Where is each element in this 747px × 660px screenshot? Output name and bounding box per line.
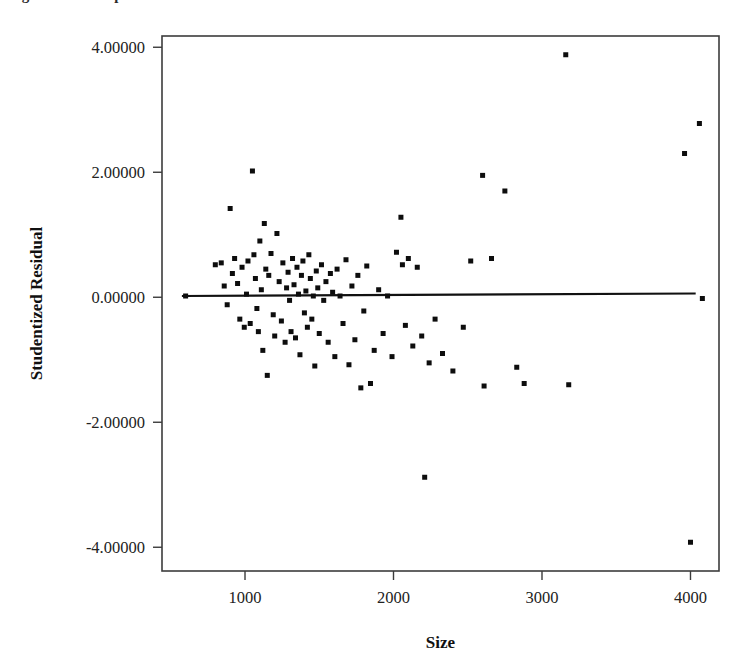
data-point <box>346 362 351 367</box>
data-point <box>297 352 302 357</box>
data-point <box>682 151 687 156</box>
y-tick-label: 4.00000 <box>91 38 145 57</box>
data-point <box>250 169 255 174</box>
data-point <box>244 292 249 297</box>
reference-line <box>182 294 696 297</box>
zero-reference-line <box>182 294 696 297</box>
data-point <box>274 231 279 236</box>
data-point <box>293 335 298 340</box>
data-point <box>403 323 408 328</box>
data-point <box>338 294 343 299</box>
x-axis-ticks: 1000200030004000 <box>229 571 707 607</box>
data-point <box>400 262 405 267</box>
data-point <box>251 252 256 257</box>
data-point <box>240 265 245 270</box>
data-point <box>368 381 373 386</box>
data-point <box>480 173 485 178</box>
data-point <box>259 287 264 292</box>
data-point <box>263 267 268 272</box>
data-point <box>394 250 399 255</box>
data-point <box>321 298 326 303</box>
data-point <box>225 302 230 307</box>
data-point <box>279 319 284 324</box>
data-point <box>280 260 285 265</box>
y-axis-title: Studentized Residual <box>27 226 46 380</box>
data-point <box>271 312 276 317</box>
data-point <box>219 260 224 265</box>
data-point <box>422 475 427 480</box>
data-point <box>427 360 432 365</box>
data-point <box>284 285 289 290</box>
data-point <box>326 340 331 345</box>
data-point <box>287 298 292 303</box>
data-point <box>289 329 294 334</box>
data-point <box>482 384 487 389</box>
data-point <box>260 348 265 353</box>
data-point <box>305 325 310 330</box>
data-point <box>228 206 233 211</box>
data-point <box>688 540 693 545</box>
data-point <box>237 317 242 322</box>
data-point <box>328 271 333 276</box>
data-point <box>292 282 297 287</box>
data-point <box>306 252 311 257</box>
data-point <box>286 270 291 275</box>
data-point <box>319 262 324 267</box>
data-point <box>385 294 390 299</box>
data-point <box>440 351 445 356</box>
data-point <box>213 262 218 267</box>
data-point <box>343 257 348 262</box>
y-tick-label: -2.00000 <box>86 413 145 432</box>
y-tick-label: 2.00000 <box>91 163 145 182</box>
x-tick-label: 4000 <box>674 588 707 607</box>
data-point <box>253 276 258 281</box>
data-point <box>256 329 261 334</box>
data-point <box>312 364 317 369</box>
plot-canvas: 1000200030004000 4.000002.000000.00000-2… <box>0 0 747 660</box>
y-tick-label: -4.00000 <box>86 538 145 557</box>
data-point <box>522 381 527 386</box>
data-point <box>254 306 259 311</box>
data-point <box>242 325 247 330</box>
data-point <box>265 373 270 378</box>
data-point <box>361 309 366 314</box>
data-point <box>355 273 360 278</box>
data-point <box>514 365 519 370</box>
data-point <box>341 321 346 326</box>
data-point <box>315 285 320 290</box>
data-point <box>563 52 568 57</box>
data-point <box>406 256 411 261</box>
data-point <box>332 354 337 359</box>
scatter-plot-figure: Figure 1 Scatterplot of Studentized Resi… <box>0 0 747 660</box>
data-point <box>349 284 354 289</box>
data-point <box>235 281 240 286</box>
data-point <box>700 296 705 301</box>
data-point <box>461 325 466 330</box>
data-point <box>415 265 420 270</box>
data-point <box>283 340 288 345</box>
data-point <box>300 259 305 264</box>
data-point <box>364 264 369 269</box>
data-point <box>290 256 295 261</box>
data-point <box>376 287 381 292</box>
data-point <box>335 267 340 272</box>
data-point <box>248 321 253 326</box>
data-points <box>183 52 705 545</box>
data-point <box>277 279 282 284</box>
data-point <box>398 215 403 220</box>
data-point <box>502 189 507 194</box>
x-tick-label: 2000 <box>377 588 410 607</box>
data-point <box>183 294 188 299</box>
data-point <box>390 354 395 359</box>
data-point <box>419 334 424 339</box>
y-axis-ticks: 4.000002.000000.00000-2.00000-4.00000 <box>86 38 162 557</box>
data-point <box>372 348 377 353</box>
y-tick-label: 0.00000 <box>91 288 145 307</box>
data-point <box>697 121 702 126</box>
data-point <box>302 310 307 315</box>
data-point <box>308 276 313 281</box>
data-point <box>272 334 277 339</box>
data-point <box>303 289 308 294</box>
data-point <box>323 279 328 284</box>
data-point <box>314 269 319 274</box>
